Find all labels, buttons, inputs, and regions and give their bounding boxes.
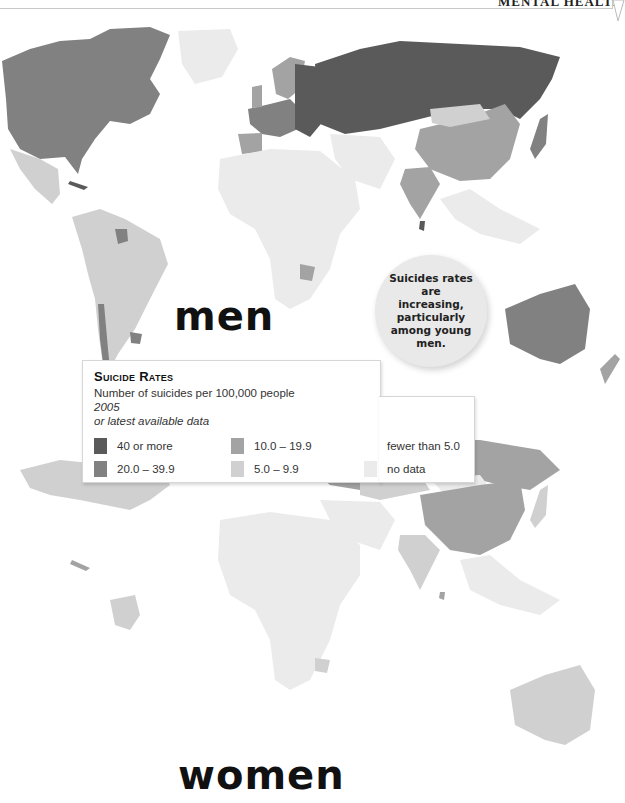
legend-label: 5.0 – 9.9 <box>254 463 299 475</box>
legend-swatch <box>364 438 377 454</box>
legend-subtitle: Number of suicides per 100,000 people <box>94 387 295 399</box>
legend-item-40-plus: 40 or more <box>94 438 173 454</box>
legend-swatch <box>231 461 244 477</box>
callout-bubble: Suicides rates are increasing, particula… <box>375 255 487 367</box>
australia <box>505 284 590 364</box>
africa <box>218 512 360 690</box>
men-label: men <box>174 293 274 339</box>
legend-item-no-data: no data <box>364 461 425 477</box>
india <box>398 535 440 590</box>
new-zealand <box>600 354 620 384</box>
legend-item-20-39: 20.0 – 39.9 <box>94 461 175 477</box>
uk <box>252 85 262 108</box>
legend-swatch <box>94 438 107 454</box>
legend-panel-extension: fewer than 5.0 no data <box>379 396 475 483</box>
callout-text: Suicides rates are increasing, particula… <box>387 272 475 350</box>
legend-label: 10.0 – 19.9 <box>254 440 312 452</box>
legend-title: Suicide Rates <box>94 369 173 384</box>
australia <box>510 665 595 745</box>
africa <box>218 149 360 309</box>
legend-swatch <box>364 461 377 477</box>
legend-swatch <box>231 438 244 454</box>
china <box>420 480 525 555</box>
india <box>400 167 440 219</box>
japan <box>530 114 548 159</box>
men-map <box>0 9 625 389</box>
greenland <box>178 29 238 84</box>
legend-label: 40 or more <box>117 440 173 452</box>
cuba <box>70 560 90 571</box>
zimbabwe <box>315 658 330 673</box>
south-america <box>110 595 140 630</box>
southeast-asia <box>440 189 540 244</box>
legend-label: no data <box>387 463 425 475</box>
north-america <box>2 27 170 174</box>
legend-swatch <box>94 461 107 477</box>
southeast-asia <box>460 555 560 615</box>
legend-item-5-9: 5.0 – 9.9 <box>231 461 299 477</box>
legend-item-under-5: fewer than 5.0 <box>364 438 460 454</box>
women-label: women <box>178 752 345 798</box>
legend-label: fewer than 5.0 <box>387 440 460 452</box>
cuba <box>68 181 88 190</box>
legend-note: or latest available data <box>94 415 209 427</box>
sri-lanka <box>439 592 445 600</box>
legend-label: 20.0 – 39.9 <box>117 463 175 475</box>
spain <box>238 133 262 154</box>
sri-lanka <box>419 221 425 231</box>
legend-item-10-19: 10.0 – 19.9 <box>231 438 312 454</box>
legend-panel: Suicide Rates Number of suicides per 100… <box>82 360 381 483</box>
japan <box>530 485 548 528</box>
uruguay <box>130 332 142 344</box>
legend-year: 2005 <box>94 401 120 413</box>
women-map <box>0 440 625 780</box>
